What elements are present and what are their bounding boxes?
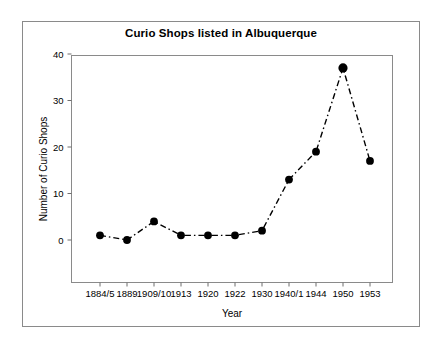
series-polyline bbox=[100, 68, 370, 240]
x-axis-tick-label: 1940/1 bbox=[274, 288, 303, 299]
data-point-marker bbox=[204, 231, 212, 239]
data-series-markers bbox=[96, 63, 374, 244]
data-point-marker bbox=[285, 176, 293, 184]
data-point-marker bbox=[366, 157, 374, 165]
x-axis-tick-label: 1909/10 bbox=[137, 288, 171, 299]
data-point-marker bbox=[231, 231, 239, 239]
y-axis-ticks bbox=[68, 54, 72, 240]
line-chart-plot: 010203040 1884/518891909/101913192019221… bbox=[0, 0, 440, 349]
chart-figure: Curio Shops listed in Albuquerque 010203… bbox=[0, 0, 440, 349]
y-axis-tick-label: 0 bbox=[58, 235, 63, 246]
x-axis-tick-labels: 1884/518891909/1019131920192219301940/11… bbox=[85, 288, 380, 299]
x-axis-tick-label: 1944 bbox=[305, 288, 326, 299]
y-axis-tick-label: 40 bbox=[53, 49, 64, 60]
x-axis-tick-label: 1953 bbox=[359, 288, 380, 299]
x-axis-ticks bbox=[100, 283, 370, 287]
x-axis-tick-label: 1884/5 bbox=[85, 288, 114, 299]
data-point-marker bbox=[312, 148, 320, 156]
data-point-marker bbox=[177, 231, 185, 239]
data-point-marker bbox=[338, 63, 347, 72]
y-axis-tick-labels: 010203040 bbox=[53, 49, 64, 246]
y-axis-tick-label: 30 bbox=[53, 95, 64, 106]
y-axis-tick-label: 20 bbox=[53, 142, 64, 153]
plot-axes-frame bbox=[72, 56, 393, 283]
x-axis-title: Year bbox=[222, 308, 243, 319]
x-axis-tick-label: 1889 bbox=[116, 288, 137, 299]
x-axis-tick-label: 1913 bbox=[170, 288, 191, 299]
data-point-marker bbox=[123, 236, 131, 244]
y-axis-title: Number of Curio Shops bbox=[38, 117, 49, 222]
data-point-marker bbox=[150, 218, 158, 226]
x-axis-tick-label: 1950 bbox=[332, 288, 353, 299]
data-point-marker bbox=[258, 227, 266, 235]
x-axis-tick-label: 1920 bbox=[197, 288, 218, 299]
data-series-line bbox=[100, 68, 370, 240]
data-point-marker bbox=[96, 231, 104, 239]
y-axis-tick-label: 10 bbox=[53, 188, 64, 199]
x-axis-tick-label: 1930 bbox=[251, 288, 272, 299]
x-axis-tick-label: 1922 bbox=[224, 288, 245, 299]
